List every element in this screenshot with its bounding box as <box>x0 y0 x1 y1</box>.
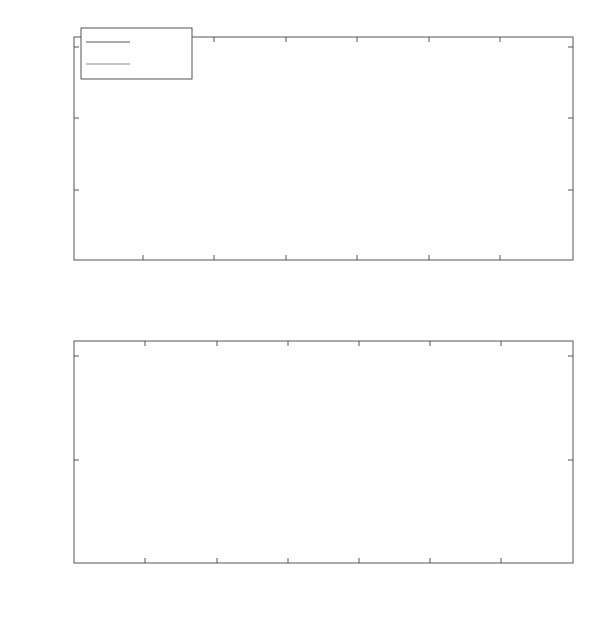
bottom-x-ticks <box>145 341 501 563</box>
top-x-ticks <box>143 37 500 260</box>
legend <box>81 28 192 79</box>
bottom-y-ticks <box>74 356 573 460</box>
bottom-chart <box>74 341 573 563</box>
legend-box <box>81 28 192 79</box>
top-chart <box>74 28 573 260</box>
figure <box>0 0 602 630</box>
bottom-plot-frame <box>74 341 573 563</box>
